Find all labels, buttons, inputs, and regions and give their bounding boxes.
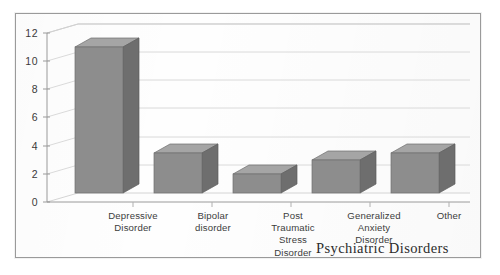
y-tick-label-2: 2: [14, 168, 38, 180]
y-tick-label-6: 6: [14, 111, 38, 123]
cat-line-1: Other: [410, 210, 488, 222]
cat-line-2: Anxiety: [322, 222, 426, 234]
y-tick-label-0: 0: [14, 196, 38, 208]
y-tick-label-10: 10: [14, 55, 38, 67]
y-tick-label-12: 12: [14, 27, 38, 39]
y-tick-label-8: 8: [14, 83, 38, 95]
y-tick-label-4: 4: [14, 140, 38, 152]
x-category-label-other: Other: [410, 210, 488, 222]
x-axis-title: Psychiatric Disorders: [316, 240, 449, 257]
